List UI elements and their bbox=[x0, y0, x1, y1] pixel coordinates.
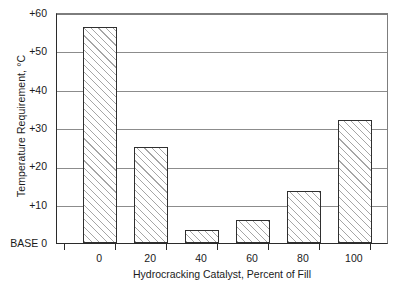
x-tick-mark bbox=[268, 244, 269, 250]
y-axis-tick-labels: +60 +50 +40 +30 +20 +10 BASE 0 bbox=[0, 0, 54, 285]
x-tick-mark bbox=[166, 244, 167, 250]
x-axis-ticks bbox=[56, 244, 388, 251]
x-tick-mark bbox=[115, 244, 116, 250]
y-tick-label-base: BASE 0 bbox=[10, 238, 47, 248]
x-tick-label-100: 100 bbox=[345, 252, 363, 264]
x-tick-mark bbox=[64, 244, 65, 250]
x-tick-label-0: 0 bbox=[96, 252, 102, 264]
y-tick-label-60: +60 bbox=[29, 8, 47, 18]
x-tick-mark bbox=[319, 244, 320, 250]
bar-0 bbox=[83, 27, 117, 243]
y-tick-label-40: +40 bbox=[29, 85, 47, 95]
bar-chart: Temperature Requirement, °C +60 +50 +40 … bbox=[0, 0, 400, 285]
y-tick-label-10: +10 bbox=[29, 200, 47, 210]
bar-80 bbox=[287, 191, 321, 243]
y-tick-label-50: +50 bbox=[29, 46, 47, 56]
x-axis-tick-labels: 0 20 40 60 80 100 bbox=[0, 252, 400, 268]
x-tick-label-60: 60 bbox=[246, 252, 258, 264]
y-tick-label-30: +30 bbox=[29, 123, 47, 133]
x-axis-title: Hydrocracking Catalyst, Percent of Fill bbox=[56, 268, 388, 280]
bar-100 bbox=[338, 120, 372, 243]
bar-20 bbox=[134, 147, 168, 243]
bar-60 bbox=[236, 220, 270, 243]
x-tick-label-80: 80 bbox=[297, 252, 309, 264]
x-tick-mark bbox=[217, 244, 218, 250]
bar-40 bbox=[185, 230, 219, 243]
x-tick-label-20: 20 bbox=[144, 252, 156, 264]
y-tick-label-20: +20 bbox=[29, 161, 47, 171]
plot-area bbox=[56, 13, 388, 244]
x-tick-label-40: 40 bbox=[195, 252, 207, 264]
bars-layer bbox=[57, 14, 387, 243]
x-tick-mark bbox=[370, 244, 371, 250]
